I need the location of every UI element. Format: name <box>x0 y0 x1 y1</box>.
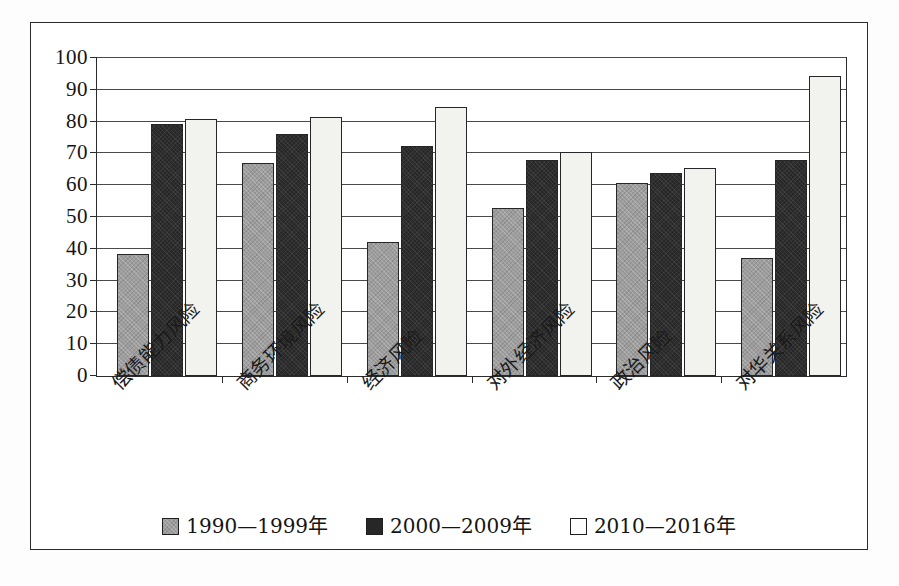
y-axis-tick-label: 20 <box>32 301 88 322</box>
y-axis-tick-mark <box>90 248 97 249</box>
y-axis-tick-label: 90 <box>32 79 88 100</box>
y-axis-tick-mark <box>90 311 97 312</box>
y-axis: 1009080706050403020100 <box>30 57 88 375</box>
y-axis-tick-mark <box>90 89 97 90</box>
legend-swatch-icon <box>366 518 383 535</box>
bar <box>435 107 467 376</box>
chart-figure: 1009080706050403020100 偿债能力风险商务环境风险经济风险对… <box>0 0 899 586</box>
y-axis-tick-label: 10 <box>32 333 88 354</box>
legend-swatch-icon <box>570 518 587 535</box>
x-axis-category-labels: 偿债能力风险商务环境风险经济风险对外经济风险政治风险对华关系风险 <box>96 377 845 497</box>
bar <box>684 168 716 376</box>
y-axis-tick-label: 80 <box>32 111 88 132</box>
y-axis-tick-label: 40 <box>32 238 88 259</box>
legend-entry[interactable]: 1990—1999年 <box>162 516 328 536</box>
gridline <box>97 57 846 58</box>
bar <box>185 119 217 376</box>
y-axis-tick-mark <box>90 216 97 217</box>
legend-label: 2000—2009年 <box>390 516 532 536</box>
y-axis-tick-mark <box>90 375 97 376</box>
y-axis-tick-label: 70 <box>32 142 88 163</box>
y-axis-tick-mark <box>90 280 97 281</box>
legend-label: 1990—1999年 <box>186 516 328 536</box>
y-axis-tick-mark <box>90 152 97 153</box>
y-axis-tick-mark <box>90 184 97 185</box>
plot-area <box>96 57 847 377</box>
y-axis-tick-mark <box>90 57 97 58</box>
y-axis-tick-label: 0 <box>32 365 88 386</box>
y-axis-tick-mark <box>90 343 97 344</box>
y-axis-tick-label: 30 <box>32 270 88 291</box>
y-axis-tick-label: 100 <box>32 47 88 68</box>
bar <box>310 117 342 376</box>
legend-swatch-icon <box>162 518 179 535</box>
legend-label: 2010—2016年 <box>594 516 736 536</box>
y-axis-tick-label: 50 <box>32 206 88 227</box>
bar <box>560 152 592 376</box>
y-axis-tick-mark <box>90 121 97 122</box>
bar <box>809 76 841 377</box>
chart-legend: 1990—1999年2000—2009年2010—2016年 <box>30 506 868 546</box>
legend-entry[interactable]: 2010—2016年 <box>570 516 736 536</box>
legend-entry[interactable]: 2000—2009年 <box>366 516 532 536</box>
gridline <box>97 89 846 90</box>
y-axis-tick-label: 60 <box>32 174 88 195</box>
